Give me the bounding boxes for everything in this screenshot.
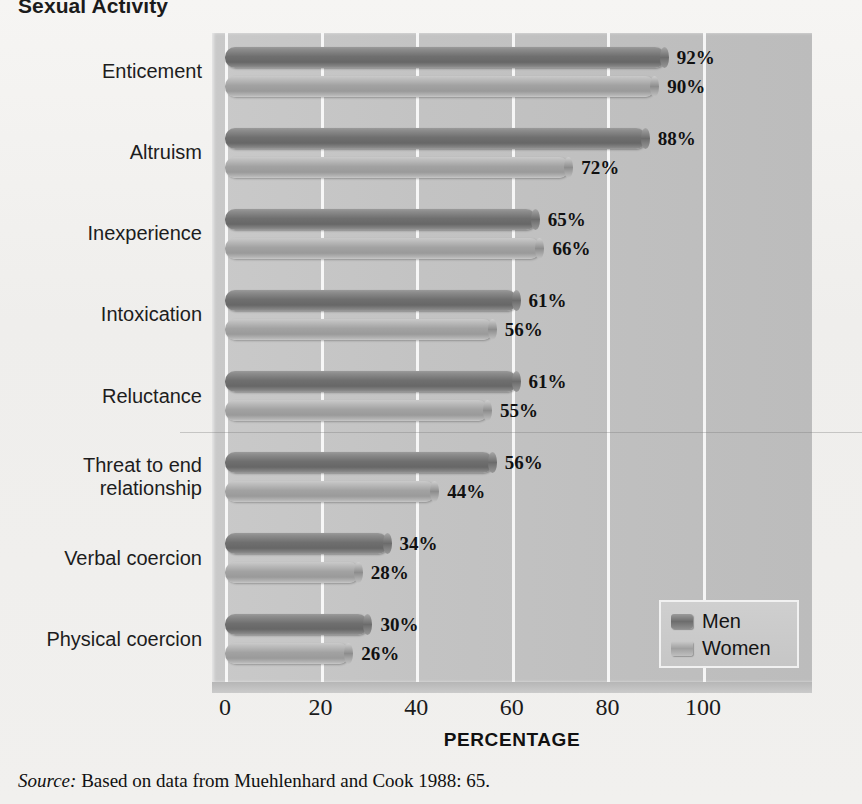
legend-item-women[interactable]: Women [671,635,797,662]
category-label-line: Enticement [2,60,202,83]
bar-women-1 [225,157,569,178]
plot-floor [212,682,812,693]
bar-cap-icon [430,481,439,502]
category-label-3: Intoxication [2,303,202,326]
bar-cap-icon [344,643,353,664]
scan-artifact-line [180,432,862,433]
bar-cap-icon [488,452,497,473]
bar-men-5 [225,452,493,473]
bar-women-3 [225,319,493,340]
category-label-line: Verbal coercion [2,547,202,570]
bar-women-5 [225,481,435,502]
bar-cap-icon [363,614,372,635]
category-label-line: Inexperience [2,222,202,245]
legend-label-men: Men [702,610,741,633]
legend-swatch-women-icon [671,641,693,656]
chart-legend: Men Women [659,600,799,668]
bar-women-2 [225,238,540,259]
gridline-100 [703,33,706,682]
bar-value-men-7: 30% [380,614,418,635]
bar-cap-icon [354,562,363,583]
bar-value-men-6: 34% [400,533,438,554]
x-tick-label-100: 100 [685,694,721,721]
bar-men-1 [225,128,646,149]
category-label-line: relationship [2,477,202,500]
bar-value-women-2: 66% [552,238,590,259]
bar-cap-icon [512,371,521,392]
x-tick-label-60: 60 [500,694,524,721]
bar-cap-icon [564,157,573,178]
x-tick-label-20: 20 [309,694,333,721]
bar-men-0 [225,47,665,68]
bar-value-women-7: 26% [361,643,399,664]
category-label-7: Physical coercion [2,628,202,651]
bar-value-women-6: 28% [371,562,409,583]
bar-value-men-0: 92% [677,47,715,68]
source-note: Source: Based on data from Muehlenhard a… [18,770,490,792]
bar-women-6 [225,562,359,583]
bar-value-men-2: 65% [548,209,586,230]
bar-men-6 [225,533,388,554]
category-label-1: Altruism [2,141,202,164]
category-label-6: Verbal coercion [2,547,202,570]
category-label-line: Reluctance [2,385,202,408]
bar-value-women-1: 72% [581,157,619,178]
bar-cap-icon [531,209,540,230]
bar-cap-icon [535,238,544,259]
bar-women-4 [225,400,488,421]
legend-item-men[interactable]: Men [671,608,797,635]
plot-area: 92%90%88%72%65%66%61%56%61%55%56%44%34%2… [212,33,812,682]
bar-women-0 [225,76,655,97]
bar-men-2 [225,209,536,230]
category-label-line: Threat to end [2,454,202,477]
category-label-line: Physical coercion [2,628,202,651]
source-label: Source: [18,770,76,791]
bar-value-women-4: 55% [500,400,538,421]
bar-cap-icon [483,400,492,421]
bar-men-7 [225,614,368,635]
bar-value-women-5: 44% [447,481,485,502]
category-label-2: Inexperience [2,222,202,245]
x-tick-label-40: 40 [404,694,428,721]
bar-value-women-3: 56% [505,319,543,340]
page-title: Sexual Activity [18,0,168,18]
category-axis: EnticementAltruismInexperienceIntoxicati… [0,33,202,682]
bar-cap-icon [641,128,650,149]
bar-cap-icon [660,47,669,68]
bar-men-3 [225,290,517,311]
bar-cap-icon [650,76,659,97]
legend-label-women: Women [702,637,771,660]
category-label-4: Reluctance [2,385,202,408]
bar-value-women-0: 90% [667,76,705,97]
bar-men-4 [225,371,517,392]
bar-cap-icon [383,533,392,554]
bar-value-men-3: 61% [529,290,567,311]
x-axis-title: PERCENTAGE [212,729,812,751]
x-tick-label-80: 80 [595,694,619,721]
x-tick-label-0: 0 [219,694,231,721]
source-text: Based on data from Muehlenhard and Cook … [76,770,490,791]
category-label-line: Intoxication [2,303,202,326]
category-label-5: Threat to endrelationship [2,454,202,500]
figure-page: Sexual Activity 92%90%88%72%65%66%61%56%… [0,0,862,804]
bar-value-men-4: 61% [529,371,567,392]
category-label-line: Altruism [2,141,202,164]
bar-value-men-1: 88% [658,128,696,149]
bar-cap-icon [512,290,521,311]
bar-women-7 [225,643,349,664]
category-label-0: Enticement [2,60,202,83]
legend-swatch-men-icon [671,614,693,629]
bar-value-men-5: 56% [505,452,543,473]
bar-cap-icon [488,319,497,340]
